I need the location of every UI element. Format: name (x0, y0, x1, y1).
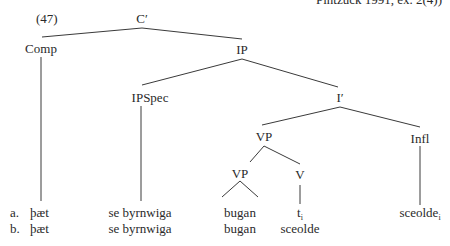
branch-ibar-infl (340, 107, 420, 127)
row-a-infl: sceoldei (399, 205, 440, 220)
node-ibar: I′ (336, 90, 343, 105)
row-a-marker: a. (10, 205, 19, 220)
row-a-infl-text: sceolde (399, 205, 438, 220)
node-ip: IP (236, 42, 248, 57)
row-a-infl-index: i (438, 213, 440, 222)
row-b-comp: þæt (30, 221, 49, 236)
row-b-marker: b. (10, 221, 20, 236)
node-cbar: C′ (136, 11, 148, 26)
row-a-v-trace: ti (297, 205, 303, 220)
syntax-tree-diagram: Pintzuck 1991, ex. 2(4)) (0, 0, 450, 246)
row-b-vp-inner: bugan (224, 221, 256, 236)
node-v: V (295, 167, 304, 182)
row-a-vp-inner: bugan (224, 205, 256, 220)
branch-cbar-comp (42, 28, 142, 37)
node-vp-inner: VP (232, 166, 249, 181)
row-b-ipspec: se byrnwiga (108, 221, 171, 236)
branch-ip-ipspec (142, 59, 242, 85)
example-number: (47) (36, 11, 58, 26)
node-infl: Infl (411, 131, 430, 146)
row-a-ipspec: se byrnwiga (108, 205, 171, 220)
node-comp: Comp (25, 41, 57, 56)
branch-vpinner-left (222, 181, 240, 197)
branch-ip-ibar (242, 59, 338, 87)
row-b-v: sceolde (281, 221, 320, 236)
branch-vp-v (264, 146, 300, 164)
node-ipspec: IPSpec (132, 90, 169, 105)
branch-ibar-vp (262, 107, 340, 125)
node-vp: VP (256, 129, 273, 144)
row-a-comp: þæt (30, 205, 49, 220)
branch-cbar-ip (142, 28, 242, 39)
branch-vp-vpinner (250, 146, 264, 162)
branch-vpinner-right (240, 181, 258, 197)
